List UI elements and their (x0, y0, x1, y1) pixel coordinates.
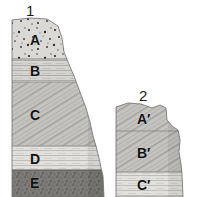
layer-label-C: C (30, 108, 40, 122)
layer-label-A-prime: A′ (137, 112, 150, 126)
layer-label-D: D (30, 152, 40, 166)
stratigraphic-diagram (0, 0, 201, 197)
layer-label-C-prime: C′ (137, 178, 150, 192)
layer-label-B-prime: B′ (137, 146, 150, 160)
column-1-number-label: 1 (26, 3, 34, 18)
layer-label-A: A (30, 33, 40, 47)
column-2-number-label: 2 (139, 88, 147, 103)
column-2-body (100, 90, 201, 197)
layer-C-prime-fill (100, 172, 201, 197)
layer-B-prime-fill (100, 131, 201, 172)
layer-A-prime-fill (100, 90, 201, 131)
layer-label-E: E (30, 176, 39, 190)
stratigraphic-column-figure: 1 2 A B C D E A′ B′ C′ (0, 0, 201, 197)
layer-label-B: B (30, 64, 40, 78)
